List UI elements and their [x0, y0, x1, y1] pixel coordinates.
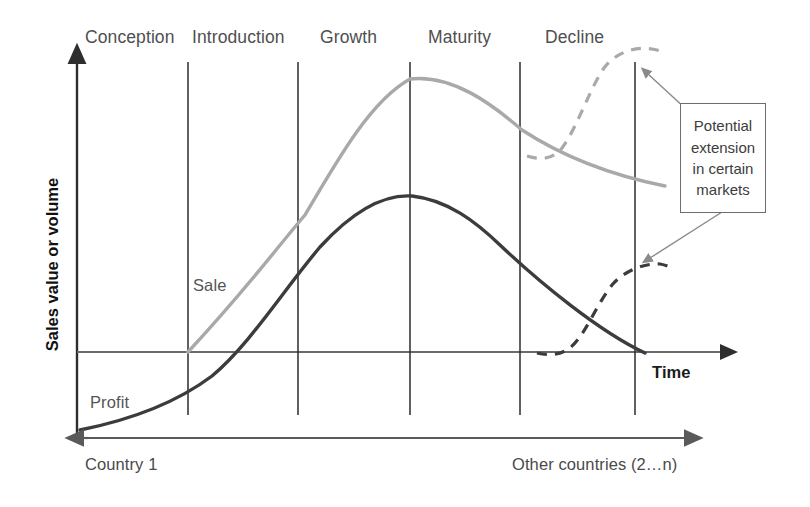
stage-label-decline: Decline [545, 27, 604, 48]
sale-extension-curve [527, 48, 664, 158]
sale-curve [188, 78, 665, 352]
y-axis-title: Sales value or volume [43, 150, 62, 380]
country-label-left: Country 1 [85, 455, 157, 474]
annotation-line-1: Potential [694, 115, 752, 136]
stage-label-conception: Conception [85, 27, 175, 48]
annotation-line-3: in certain [693, 158, 754, 179]
profit-extension-curve [537, 264, 673, 355]
profit-curve-label: Profit [90, 393, 129, 412]
profit-curve [80, 196, 645, 430]
product-life-cycle-chart [0, 0, 810, 507]
stage-label-maturity: Maturity [428, 27, 491, 48]
connector-lower [650, 212, 722, 258]
annotation-line-4: markets [696, 179, 749, 200]
x-axis-title: Time [652, 363, 691, 382]
country-label-right: Other countries (2…n) [512, 455, 677, 474]
stage-label-introduction: Introduction [192, 27, 285, 48]
annotation-box: Potential extension in certain markets [680, 103, 766, 213]
annotation-line-2: extension [691, 137, 755, 158]
stage-dividers [188, 62, 635, 415]
diagram-canvas: Sales value or volume Conception Introdu… [0, 0, 810, 507]
stage-label-growth: Growth [320, 27, 377, 48]
sale-curve-label: Sale [193, 276, 226, 295]
